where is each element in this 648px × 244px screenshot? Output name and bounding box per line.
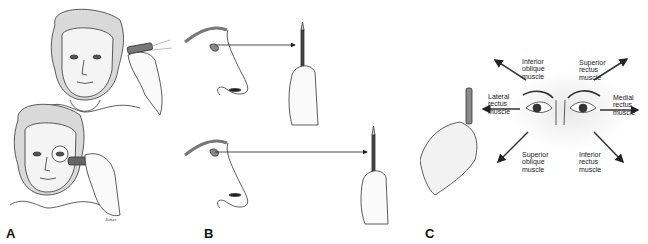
panel-c: Inferiorobliquemuscle Superiorrectusmusc…	[420, 0, 648, 244]
pen-hand	[420, 88, 477, 195]
face-profile-bottom	[185, 141, 248, 208]
panel-label-b: B	[204, 226, 213, 241]
patient-top	[45, 9, 140, 112]
pencil-hand-near	[289, 22, 318, 125]
label-superior-oblique: Superiorobliquemuscle	[522, 143, 548, 181]
artist-signature: Jones	[105, 217, 116, 222]
label-lateral-rectus: Lateralrectusmuscle	[488, 85, 510, 123]
occluder-hand-bottom	[68, 154, 120, 216]
label-medial-rectus: Medialrectusmuscle	[613, 86, 635, 124]
panel-label-c: C	[425, 226, 434, 241]
patient-illustration: Jones	[0, 0, 175, 244]
fixation-illustration	[170, 0, 420, 244]
label-inferior-oblique: Inferiorobliquemuscle	[522, 50, 545, 88]
penlight-hand-top	[127, 40, 172, 115]
panel-a: Jones A	[0, 0, 175, 244]
label-inferior-rectus: Inferiorrectusmuscle	[579, 143, 601, 181]
panel-label-a: A	[6, 226, 15, 241]
label-superior-rectus: Superiorrectusmuscle	[579, 51, 605, 89]
pencil-hand-far	[361, 126, 388, 224]
face-profile-top	[185, 28, 248, 95]
panel-b: B	[170, 0, 420, 244]
